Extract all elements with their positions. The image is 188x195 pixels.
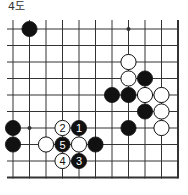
move-number: 3 [76, 155, 82, 167]
black-stone-icon [121, 120, 136, 135]
white-stone-icon [154, 104, 169, 119]
move-number: 5 [59, 139, 65, 151]
move-number: 2 [59, 122, 65, 134]
white-stone [154, 120, 169, 135]
black-stone-move-1: 1 [71, 120, 86, 135]
white-stone [38, 137, 53, 152]
white-stone [137, 87, 152, 102]
move-number: 1 [76, 122, 82, 134]
white-stone-icon [121, 54, 136, 69]
move-number: 4 [59, 155, 65, 167]
go-board: 21543 [0, 0, 188, 195]
white-stone-icon [121, 71, 136, 86]
black-stone-icon [137, 104, 152, 119]
white-stone-move-2: 2 [55, 120, 70, 135]
black-stone-icon [104, 87, 119, 102]
white-stone [154, 104, 169, 119]
white-stone-icon [38, 137, 53, 152]
black-stone-icon [121, 87, 136, 102]
black-stone [104, 87, 119, 102]
black-stone-icon [137, 71, 152, 86]
black-stone [137, 104, 152, 119]
black-stone [88, 137, 103, 152]
black-stone [137, 71, 152, 86]
black-stone [5, 120, 20, 135]
white-stone-move-4: 4 [55, 153, 70, 168]
black-stone [22, 21, 37, 36]
board-grid [7, 20, 178, 179]
black-stone-icon [88, 137, 103, 152]
white-stone [121, 71, 136, 86]
black-stone [121, 87, 136, 102]
black-stone-icon [22, 21, 37, 36]
black-stone-move-3: 3 [71, 153, 86, 168]
black-stone [121, 120, 136, 135]
white-stone-icon [137, 87, 152, 102]
black-stone-move-5: 5 [55, 137, 70, 152]
white-stone-icon [154, 120, 169, 135]
black-stone-icon [5, 120, 20, 135]
black-stone [5, 137, 20, 152]
white-stone-icon [154, 87, 169, 102]
white-stone [121, 54, 136, 69]
white-stone [71, 137, 86, 152]
white-stone-icon [71, 137, 86, 152]
black-stone-icon [5, 137, 20, 152]
white-stone [154, 87, 169, 102]
star-point-icon [28, 126, 32, 130]
star-point-icon [127, 27, 131, 31]
